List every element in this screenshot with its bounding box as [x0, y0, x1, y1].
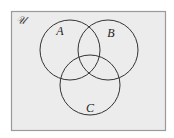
set-a-label: A	[55, 24, 64, 38]
venn-diagram: 𝒰 A B C	[0, 0, 174, 138]
set-c-label: C	[86, 101, 95, 115]
set-b-label: B	[107, 26, 115, 40]
venn-svg: 𝒰 A B C	[0, 0, 174, 138]
